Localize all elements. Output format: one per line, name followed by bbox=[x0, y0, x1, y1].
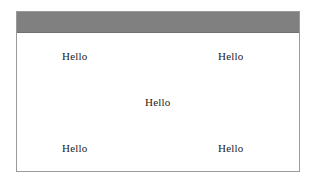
grid-cell-bottom-center bbox=[111, 125, 205, 171]
hello-label-top-left: Hello bbox=[62, 50, 87, 63]
window-title-bar[interactable] bbox=[17, 12, 299, 33]
grid-cell-top-left: Hello bbox=[17, 33, 111, 79]
hello-label-bottom-right: Hello bbox=[218, 142, 243, 155]
app-window: Hello Hello Hello Hello Hello bbox=[16, 11, 300, 172]
grid-cell-bottom-left: Hello bbox=[17, 125, 111, 171]
grid-cell-top-right: Hello bbox=[205, 33, 299, 79]
grid-cell-bottom-right: Hello bbox=[205, 125, 299, 171]
hello-label-top-right: Hello bbox=[218, 50, 243, 63]
grid-cell-middle-right bbox=[205, 79, 299, 125]
hello-label-center: Hello bbox=[145, 96, 170, 109]
grid-cell-middle-center: Hello bbox=[111, 79, 205, 125]
grid-cell-middle-left bbox=[17, 79, 111, 125]
content-pane: Hello Hello Hello Hello Hello bbox=[17, 33, 299, 171]
grid-cell-top-center bbox=[111, 33, 205, 79]
hello-label-bottom-left: Hello bbox=[62, 142, 87, 155]
